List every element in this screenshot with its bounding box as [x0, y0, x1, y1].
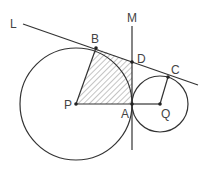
label-a: A — [121, 107, 129, 121]
label-q: Q — [161, 107, 170, 121]
point-b — [94, 46, 98, 50]
label-l: L — [10, 17, 17, 31]
point-d — [130, 60, 134, 64]
diagram-svg: L M B D C P A Q — [0, 0, 212, 172]
label-b: B — [91, 32, 99, 46]
label-c: C — [171, 63, 180, 77]
shaded-region-pbda — [76, 48, 132, 104]
point-a — [130, 102, 134, 106]
point-p — [74, 102, 78, 106]
point-q — [158, 102, 162, 106]
segment-qc — [160, 77, 168, 104]
label-d: D — [137, 52, 146, 66]
point-c — [166, 75, 170, 79]
label-m: M — [127, 11, 137, 25]
geometry-diagram: L M B D C P A Q — [0, 0, 212, 172]
label-p: P — [64, 98, 72, 112]
